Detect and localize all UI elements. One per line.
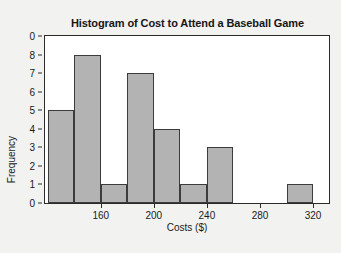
- y-tick-label: 7: [29, 68, 35, 79]
- bars-container: [45, 36, 329, 203]
- y-tick-mark: [38, 36, 42, 37]
- x-tick-label: 200: [145, 210, 162, 221]
- y-tick-label: 5: [29, 105, 35, 116]
- y-tick-mark: [38, 147, 42, 148]
- x-axis: 160200240280320: [44, 204, 330, 224]
- y-axis-title: Frequency: [6, 120, 17, 200]
- histogram-bar: [180, 184, 207, 203]
- y-tick-mark: [38, 110, 42, 111]
- y-tick-mark: [38, 203, 42, 204]
- y-tick-label: 0: [29, 31, 35, 42]
- histogram-figure: Histogram of Cost to Attend a Baseball G…: [0, 0, 341, 253]
- y-tick-mark: [38, 54, 42, 55]
- y-tick-mark: [38, 73, 42, 74]
- x-tick-label: 280: [252, 210, 269, 221]
- x-tick-mark: [154, 204, 155, 208]
- histogram-bar: [101, 184, 128, 203]
- y-axis: Frequency 0876543210: [0, 35, 42, 204]
- histogram-bar: [154, 129, 181, 203]
- y-tick-mark: [38, 128, 42, 129]
- y-tick-label: 0: [29, 198, 35, 209]
- y-tick-label: 2: [29, 160, 35, 171]
- y-tick-mark: [38, 184, 42, 185]
- plot-panel: [44, 35, 330, 204]
- x-axis-title: Costs ($): [44, 222, 330, 233]
- y-tick-label: 4: [29, 123, 35, 134]
- histogram-bar: [48, 110, 75, 203]
- histogram-bar: [287, 184, 314, 203]
- x-tick-mark: [313, 204, 314, 208]
- chart-title: Histogram of Cost to Attend a Baseball G…: [44, 17, 331, 29]
- x-tick-mark: [207, 204, 208, 208]
- y-tick-mark: [38, 91, 42, 92]
- x-tick-label: 320: [305, 210, 322, 221]
- y-tick-mark: [38, 165, 42, 166]
- x-tick-mark: [260, 204, 261, 208]
- histogram-bar: [74, 55, 101, 203]
- x-tick-mark: [101, 204, 102, 208]
- y-tick-label: 3: [29, 142, 35, 153]
- histogram-bar: [207, 147, 234, 203]
- x-tick-label: 160: [92, 210, 109, 221]
- x-tick-label: 240: [199, 210, 216, 221]
- y-tick-label: 1: [29, 179, 35, 190]
- histogram-bar: [127, 73, 154, 203]
- y-tick-label: 6: [29, 86, 35, 97]
- y-tick-label: 8: [29, 49, 35, 60]
